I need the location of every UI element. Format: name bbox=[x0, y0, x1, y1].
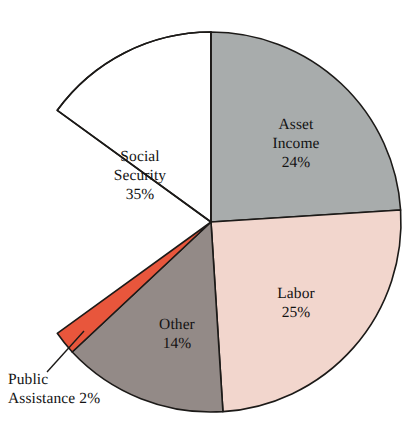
pie-label-asset-income: Asset Income 24% bbox=[248, 116, 344, 173]
pie-label-other-percent: 14% bbox=[131, 335, 223, 354]
pie-label-social-security-line1: Social bbox=[82, 148, 198, 167]
pie-label-public-assistance: Public Assistance2% bbox=[8, 370, 144, 409]
pie-label-public-assistance-line2-wrap: Assistance2% bbox=[8, 389, 144, 408]
pie-label-labor-percent: 25% bbox=[248, 304, 344, 323]
pie-label-public-assistance-line1: Public bbox=[8, 370, 144, 389]
pie-label-public-assistance-percent: 2% bbox=[79, 390, 100, 407]
pie-label-labor-line1: Labor bbox=[248, 285, 344, 304]
pie-label-other: Other 14% bbox=[131, 316, 223, 354]
pie-label-labor: Labor 25% bbox=[248, 285, 344, 323]
pie-label-asset-income-line1: Asset bbox=[248, 116, 344, 135]
pie-label-social-security-line2: Security bbox=[82, 167, 198, 186]
pie-label-asset-income-line2: Income bbox=[248, 135, 344, 154]
pie-chart: Asset Income 24% Labor 25% Social Securi… bbox=[0, 0, 420, 443]
pie-label-asset-income-percent: 24% bbox=[248, 154, 344, 173]
pie-label-social-security-percent: 35% bbox=[82, 186, 198, 205]
pie-label-other-line1: Other bbox=[131, 316, 223, 335]
pie-label-public-assistance-line2: Assistance bbox=[8, 390, 75, 407]
pie-label-social-security: Social Security 35% bbox=[82, 148, 198, 205]
